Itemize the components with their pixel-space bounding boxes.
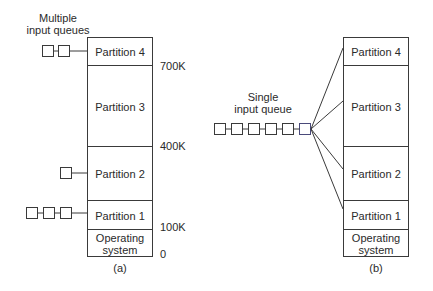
os-label: system [359, 244, 394, 256]
partition-label: Partition 4 [351, 46, 401, 58]
partition-3: Partition 3 [344, 65, 408, 147]
partition-2: Partition 2 [88, 146, 152, 201]
os-label: Operating [352, 232, 400, 244]
operating-system: Operating system [344, 229, 408, 258]
caption-a: (a) [100, 262, 140, 274]
partition-label: Partition 3 [351, 101, 401, 113]
partition-2: Partition 2 [344, 146, 408, 201]
partition-3: Partition 3 [88, 65, 152, 147]
memory-layout-a: Partition 4 Partition 3 Partition 2 Part… [87, 37, 153, 257]
partition-label: Partition 4 [95, 46, 145, 58]
partition-1: Partition 1 [88, 200, 152, 230]
partition-label: Partition 2 [95, 168, 145, 180]
title-line: Single [218, 91, 308, 103]
address-700k: 700K [160, 60, 186, 72]
partition-1: Partition 1 [344, 200, 408, 230]
memory-layout-b: Partition 4 Partition 3 Partition 2 Part… [343, 37, 409, 257]
partition-label: Partition 1 [95, 210, 145, 222]
address-400k: 400K [160, 140, 186, 152]
partition-label: Partition 2 [351, 168, 401, 180]
partition-label: Partition 3 [95, 101, 145, 113]
os-label: Operating [96, 232, 144, 244]
address-100k: 100K [160, 221, 186, 233]
title-line: Multiple [18, 12, 98, 24]
partition-4: Partition 4 [88, 38, 152, 65]
partition-label: Partition 1 [351, 210, 401, 222]
title-line: input queue [218, 103, 308, 115]
single-queue-title: Single input queue [218, 91, 308, 115]
address-0: 0 [160, 248, 166, 260]
caption-b: (b) [356, 262, 396, 274]
multiple-queues-title: Multiple input queues [18, 12, 98, 36]
os-label: system [103, 244, 138, 256]
operating-system: Operating system [88, 229, 152, 258]
title-line: input queues [18, 24, 98, 36]
partition-4: Partition 4 [344, 38, 408, 65]
